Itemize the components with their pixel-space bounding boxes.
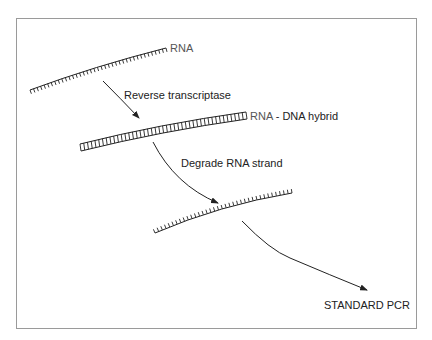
rna-dna-hybrid-strand [80,112,247,151]
hybrid-label-sep: - [273,110,283,122]
reverse-transcriptase-label: Reverse transcriptase [124,89,231,101]
rna-strand [30,48,167,94]
rna-dna-hybrid-label: RNA - DNA hybrid [250,110,338,122]
hybrid-label-rna: RNA [250,110,273,122]
rna-label: RNA [170,42,193,54]
degrade-rna-strand-label: Degrade RNA strand [181,157,283,169]
arrow-degrade-rna [153,142,218,203]
arrow-standard-pcr [242,221,367,290]
diagram-canvas [0,0,432,340]
rna-label-text: RNA [170,42,193,54]
cdna-strand [153,189,292,233]
hybrid-label-dna: DNA hybrid [282,110,338,122]
standard-pcr-label: STANDARD PCR [324,299,410,311]
